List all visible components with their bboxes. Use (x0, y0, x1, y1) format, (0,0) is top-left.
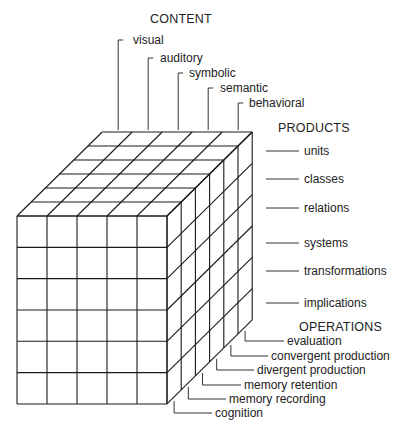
content-label-visual: visual (133, 33, 164, 47)
operations-header: OPERATIONS (299, 320, 382, 334)
products-label-classes: classes (304, 172, 344, 186)
operations-label-memory-retention: memory retention (244, 378, 337, 392)
products-label-relations: relations (304, 201, 349, 215)
content-label-behavioral: behavioral (249, 96, 304, 110)
products-header: PRODUCTS (278, 121, 350, 135)
products-label-units: units (304, 144, 329, 158)
content-label-auditory: auditory (160, 51, 203, 65)
operations-label-convergent-production: convergent production (271, 349, 390, 363)
operations-label-memory-recording: memory recording (229, 392, 326, 406)
content-label-symbolic: symbolic (189, 66, 236, 80)
operations-label-divergent-production: divergent production (257, 363, 366, 377)
products-label-transformations: transformations (304, 264, 387, 278)
operations-label-cognition: cognition (215, 406, 263, 420)
operations-label-evaluation: evaluation (287, 334, 342, 348)
products-label-implications: implications (304, 296, 367, 310)
content-label-semantic: semantic (220, 81, 268, 95)
content-header: CONTENT (150, 12, 212, 26)
products-label-systems: systems (304, 236, 348, 250)
